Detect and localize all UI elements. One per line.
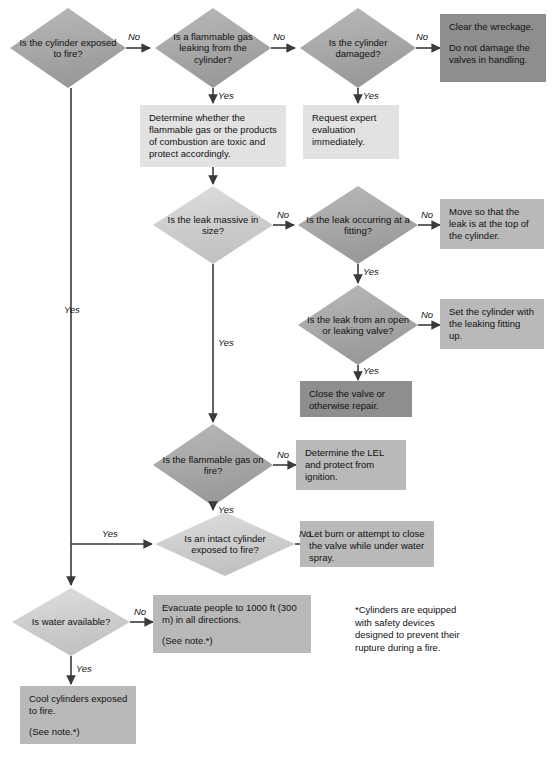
decision-shape-flammable-gas-leaking — [155, 8, 271, 88]
action-line: Determine whether the flammable gas or t… — [149, 112, 278, 160]
decision-label-intact-cylinder-exposed: Is an intact cylinder exposed to fire? — [168, 518, 282, 570]
edge-label-d4-yes: Yes — [218, 338, 234, 348]
edge-label-d7-no: No — [277, 450, 289, 460]
footnote-cylinders-safety-devices: *Cylinders are equipped with safety devi… — [355, 604, 535, 654]
edge-label-d9-yes: Yes — [76, 664, 92, 674]
decision-label-flammable-gas-leaking: Is a flammable gas leaking from the cyli… — [161, 16, 265, 80]
decision-shape-flammable-gas-on-fire — [153, 424, 273, 506]
footnote-line: with safety devices — [355, 617, 535, 630]
decision-label-cylinder-exposed-to-fire: Is the cylinder exposed to fire? — [18, 18, 118, 78]
action-box-determine-lel: Determine the LEL and protect from ignit… — [296, 440, 406, 490]
edge-label-d4-no: No — [277, 210, 289, 220]
edge-label-d8-no: No — [299, 529, 311, 539]
decision-shape-leak-massive — [153, 186, 273, 264]
footnote-line: rupture during a fire. — [355, 642, 535, 655]
edge-label-d6-yes: Yes — [363, 366, 379, 376]
edge-label-d6-no: No — [421, 310, 433, 320]
edge-label-d5-no: No — [421, 210, 433, 220]
edge-label-d1-yes-branch: Yes — [102, 529, 118, 539]
action-box-evacuate: Evacuate people to 1000 ft (300 m) in al… — [153, 595, 311, 653]
action-box-cool-cylinders: Cool cylinders exposed to fire. (See not… — [20, 686, 136, 744]
decision-shape-intact-cylinder-exposed — [155, 512, 295, 576]
edge-label-d1-yes: Yes — [64, 305, 80, 315]
action-line: (See note.*) — [29, 726, 128, 738]
edge-label-d2-no: No — [273, 32, 285, 42]
action-box-clear-wreckage: Clear the wreckage. Do not damage the va… — [440, 14, 546, 82]
action-box-set-cylinder-fitting-up: Set the cylinder with the leaking fittin… — [440, 299, 544, 349]
action-line: Request expert evaluation immediately. — [312, 112, 391, 148]
decision-label-cylinder-damaged: Is the cylinder damaged? — [312, 18, 404, 78]
edge-label-d2-yes: Yes — [218, 91, 234, 101]
decision-shape-cylinder-exposed-to-fire — [10, 8, 126, 88]
decision-shape-leak-at-fitting — [298, 186, 418, 264]
edge-label-d9-no: No — [134, 607, 146, 617]
action-line: Close the valve or otherwise repair. — [309, 388, 404, 412]
action-line: Evacuate people to 1000 ft (300 m) in al… — [162, 602, 303, 626]
action-line: Clear the wreckage. — [449, 21, 538, 33]
edge-label-d1-no: No — [128, 32, 140, 42]
action-line: Determine the LEL and protect from ignit… — [305, 447, 398, 483]
action-box-move-leak-to-top: Move so that the leak is at the top of t… — [440, 199, 544, 249]
action-line: Move so that the leak is at the top of t… — [449, 206, 536, 242]
edge-label-d3-no: No — [416, 32, 428, 42]
decision-label-water-available: Is water available? — [22, 598, 120, 646]
decision-label-leak-at-fitting: Is the leak occurring at a fitting? — [305, 198, 411, 252]
edge-label-d3-yes: Yes — [363, 91, 379, 101]
decision-label-leak-open-valve: Is the leak from an open or leaking valv… — [302, 294, 414, 356]
footnote-line: designed to prevent their — [355, 629, 535, 642]
action-line: (See note.*) — [162, 635, 303, 647]
decision-label-flammable-gas-on-fire: Is the flammable gas on fire? — [158, 438, 268, 492]
decision-label-leak-massive: Is the leak massive in size? — [160, 198, 266, 252]
footnote-line: *Cylinders are equipped — [355, 604, 535, 617]
decision-shape-leak-open-valve — [298, 285, 418, 365]
action-line: Cool cylinders exposed to fire. — [29, 693, 128, 717]
decision-shape-water-available — [12, 588, 130, 656]
edge-label-d7-yes: Yes — [218, 505, 234, 515]
action-line: Do not damage the valves in handling. — [449, 42, 538, 66]
action-box-determine-toxicity: Determine whether the flammable gas or t… — [140, 105, 286, 167]
edge-label-d5-yes: Yes — [363, 267, 379, 277]
action-box-request-expert: Request expert evaluation immediately. — [303, 105, 399, 159]
action-line: Set the cylinder with the leaking fittin… — [449, 306, 536, 342]
action-line: Let burn or attempt to close the valve w… — [309, 528, 426, 564]
action-box-let-burn: Let burn or attempt to close the valve w… — [300, 521, 434, 567]
flowchart-canvas: Is the cylinder exposed to fire? Is a fl… — [0, 0, 554, 758]
action-box-close-valve: Close the valve or otherwise repair. — [300, 381, 412, 417]
decision-shape-cylinder-damaged — [300, 8, 416, 88]
